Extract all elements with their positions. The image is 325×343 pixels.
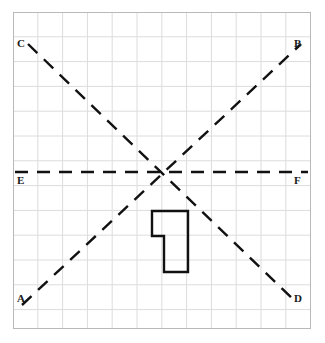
point-label-d: D bbox=[294, 293, 302, 304]
figure-canvas: CBEFAD bbox=[0, 0, 325, 343]
point-label-c: C bbox=[17, 38, 25, 49]
point-label-e: E bbox=[17, 175, 24, 186]
point-label-b: B bbox=[294, 38, 301, 49]
geometry-diagram bbox=[0, 0, 325, 343]
point-label-f: F bbox=[294, 175, 301, 186]
point-label-a: A bbox=[17, 293, 25, 304]
